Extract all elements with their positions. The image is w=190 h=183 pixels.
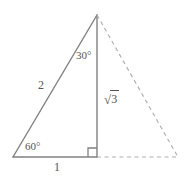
altitude-length-label: √3 [104,93,118,106]
right-angle-marker [88,148,97,157]
base-length-label: 1 [54,161,60,173]
base-angle-label: 60° [25,141,40,152]
hypotenuse-line [13,15,97,157]
apex-angle-label: 30° [76,50,91,61]
hypotenuse-length-label: 2 [38,79,44,91]
radicand-value: 3 [110,92,118,106]
mirrored-hypotenuse-line [97,15,178,157]
geometry-canvas [0,0,190,183]
triangle-diagram: 30° 60° 2 1 √3 [0,0,190,183]
radical-expression: √3 [104,93,118,106]
